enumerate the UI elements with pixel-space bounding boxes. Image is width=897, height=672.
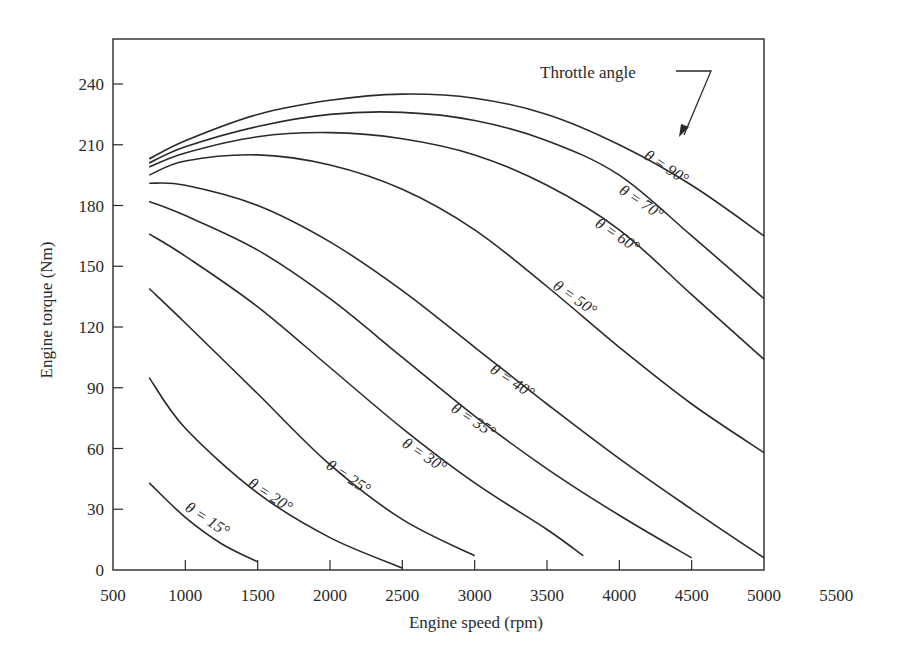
y-tick-label: 30 — [87, 500, 104, 519]
x-tick-label: 2000 — [313, 586, 347, 605]
x-tick-label: 3000 — [458, 586, 492, 605]
curve-label: θ = 30° — [399, 434, 450, 475]
engine-torque-chart: 5001000150020002500300035004000450050005… — [0, 0, 897, 672]
y-tick-label: 210 — [79, 136, 105, 155]
curve-label: θ = 50° — [550, 277, 600, 319]
curve-label: θ = 70° — [616, 181, 667, 222]
y-tick-label: 180 — [79, 197, 105, 216]
curve-label: θ = 60° — [592, 214, 643, 255]
x-tick-label: 4500 — [675, 586, 709, 605]
curve-label: θ = 25° — [323, 456, 374, 497]
plot-frame — [113, 39, 764, 570]
y-tick-label: 120 — [79, 318, 105, 337]
curve-label: θ = 20° — [245, 474, 296, 515]
x-tick-label: 1500 — [241, 586, 275, 605]
x-tick-label: 1000 — [168, 586, 202, 605]
x-tick-label: 5000 — [747, 586, 781, 605]
annotation-text: Throttle angle — [540, 63, 636, 82]
curve-label: θ = 40° — [487, 360, 538, 401]
curve-series-4 — [149, 183, 764, 558]
curve-label: θ = 90° — [641, 146, 692, 187]
y-tick-label: 90 — [87, 379, 104, 398]
y-axis: 0306090120150180210240 — [79, 75, 124, 580]
x-tick-label: 500 — [100, 586, 126, 605]
y-tick-label: 60 — [87, 440, 104, 459]
x-tick-label: 2500 — [385, 586, 419, 605]
curve-label: θ = 15° — [182, 498, 233, 539]
y-tick-label: 0 — [96, 561, 105, 580]
curve-label: θ = 35° — [448, 399, 499, 440]
x-tick-label: 4000 — [602, 586, 636, 605]
x-axis: 5001000150020002500300035004000450050005… — [100, 560, 853, 605]
y-tick-label: 240 — [79, 75, 105, 94]
x-tick-label: 5500 — [819, 586, 853, 605]
curve-series-5 — [149, 201, 692, 558]
x-axis-title: Engine speed (rpm) — [409, 613, 543, 632]
y-axis-title: Engine torque (Nm) — [37, 242, 56, 379]
throttle-angle-annotation: Throttle angle — [540, 63, 711, 137]
y-tick-label: 150 — [79, 257, 105, 276]
curve-series-8 — [149, 378, 402, 568]
x-tick-label: 3500 — [530, 586, 564, 605]
curve-series-6 — [149, 234, 583, 556]
